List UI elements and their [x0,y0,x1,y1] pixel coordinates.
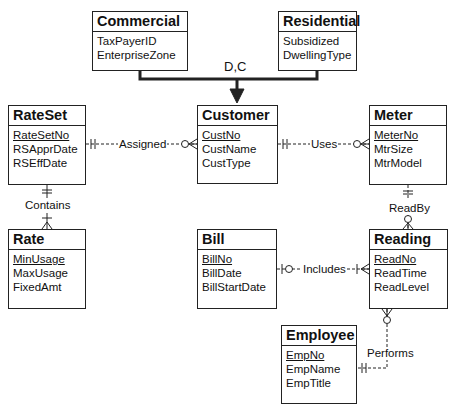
relationship-label-performs[interactable]: Performs [366,347,415,360]
crowfoot-many-icon [189,139,197,149]
entity-title: Residential [279,12,356,32]
entity-title: Meter [370,106,446,126]
crowfoot-many-icon [382,309,392,316]
relationship-label-contains[interactable]: Contains [24,199,71,212]
relationship-label-assigned[interactable]: Assigned [118,138,167,151]
attribute-list: CustNo CustName CustType [198,126,277,172]
primary-key-attribute: MinUsage [13,252,81,266]
crowfoot-many-icon [361,139,369,149]
attribute: TaxPayerID [97,34,183,48]
cardinality-zero-mark [286,266,293,273]
attribute-list: EmpNo EmpName EmpTitle [282,346,356,392]
attribute: EmpName [286,362,352,376]
primary-key-attribute: MeterNo [374,128,442,142]
attribute: FixedAmt [13,280,81,294]
attribute: CustName [202,142,273,156]
cardinality-zero-mark [405,216,412,223]
generalization-arrowhead-icon [230,89,244,103]
attribute-list: ReadNo ReadTime ReadLevel [370,250,447,296]
attribute: DwellingType [283,48,352,62]
cardinality-zero-mark [384,317,391,324]
entity-title: Rate [9,230,85,250]
attribute-list: MeterNo MtrSize MtrModel [370,126,446,172]
entity-residential[interactable]: Residential Subsidized DwellingType [278,11,357,71]
crowfoot-many-icon [361,264,369,274]
attribute: ReadLevel [374,280,443,294]
entity-title: RateSet [9,106,85,126]
attribute: BillDate [202,266,272,280]
relationship-label-includes[interactable]: Includes [302,263,347,276]
cardinality-zero-mark [354,141,361,148]
attribute: RSApprDate [13,142,81,156]
entity-reading[interactable]: Reading ReadNo ReadTime ReadLevel [369,229,448,309]
attribute: MtrModel [374,156,442,170]
attribute-list: Subsidized DwellingType [279,32,356,64]
attribute: RSEffDate [13,156,81,170]
attribute: MaxUsage [13,266,81,280]
attribute-list: BillNo BillDate BillStartDate [198,250,276,296]
attribute: MtrSize [374,142,442,156]
entity-title: Bill [198,230,276,250]
attribute: EmpTitle [286,376,352,390]
attribute: Subsidized [283,34,352,48]
attribute-list: TaxPayerID EnterpriseZone [93,32,187,64]
attribute: EnterpriseZone [97,48,183,62]
primary-key-attribute: CustNo [202,128,273,142]
primary-key-attribute: RateSetNo [13,128,81,142]
cardinality-zero-mark [182,141,189,148]
entity-title: Reading [370,230,447,250]
entity-rate-weak[interactable]: Rate MinUsage MaxUsage FixedAmt [8,229,86,309]
entity-meter[interactable]: Meter MeterNo MtrSize MtrModel [369,105,447,185]
attribute: CustType [202,156,273,170]
entity-employee[interactable]: Employee EmpNo EmpName EmpTitle [281,325,357,404]
entity-rateset[interactable]: RateSet RateSetNo RSApprDate RSEffDate [8,105,86,185]
relationship-label-uses[interactable]: Uses [310,138,338,151]
attribute: ReadTime [374,266,443,280]
entity-title: Customer [198,106,277,126]
entity-commercial[interactable]: Commercial TaxPayerID EnterpriseZone [92,11,188,71]
entity-bill[interactable]: Bill BillNo BillDate BillStartDate [197,229,277,309]
entity-customer[interactable]: Customer CustNo CustName CustType [197,105,278,184]
attribute-list: MinUsage MaxUsage FixedAmt [9,250,85,296]
entity-title: Commercial [93,12,187,32]
attribute-list: RateSetNo RSApprDate RSEffDate [9,126,85,172]
primary-key-attribute: BillNo [202,252,272,266]
entity-title: Employee [282,326,356,346]
attribute: BillStartDate [202,280,272,294]
relationship-label-readby[interactable]: ReadBy [388,202,431,215]
generalization-label: D,C [224,59,246,74]
primary-key-attribute: ReadNo [374,252,443,266]
primary-key-attribute: EmpNo [286,348,352,362]
